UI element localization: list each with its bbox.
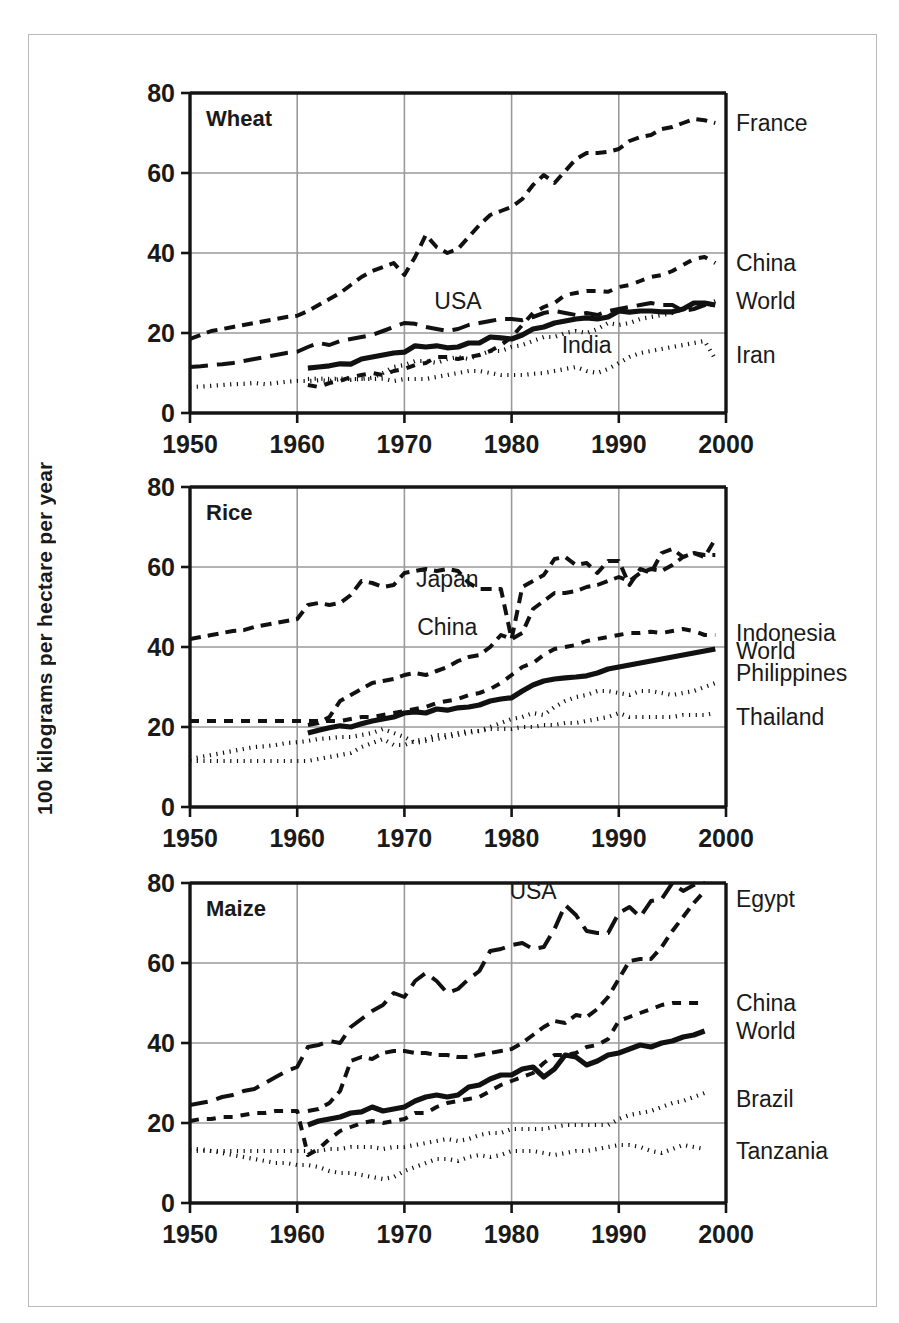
y-tick-label: 20 xyxy=(147,1109,175,1137)
panel-wheat: 020406080195019601970198019902000WheatUS… xyxy=(29,35,878,455)
y-tick-label: 40 xyxy=(147,1029,175,1057)
y-tick-label: 80 xyxy=(147,79,175,107)
chart-maize: 020406080195019601970198019902000MaizeUS… xyxy=(29,817,878,1277)
series-line-philippines xyxy=(190,683,715,759)
x-tick-label: 1970 xyxy=(377,1220,433,1248)
y-tick-label: 80 xyxy=(147,869,175,897)
inline-annotation-usa: USA xyxy=(434,288,482,314)
y-tick-label: 60 xyxy=(147,949,175,977)
series-label-egypt: Egypt xyxy=(736,886,795,912)
figure-frame: 100 kilograms per hectare per year 02040… xyxy=(28,34,877,1307)
series-group xyxy=(190,881,705,1179)
y-tick-label: 60 xyxy=(147,159,175,187)
inline-annotation-india: India xyxy=(562,332,612,358)
y-tick-label: 80 xyxy=(147,473,175,501)
series-line-tanzania xyxy=(190,1145,705,1179)
x-tick-label: 1990 xyxy=(591,1220,647,1248)
series-label-philippines: Philippines xyxy=(736,660,847,686)
y-tick-label: 40 xyxy=(147,239,175,267)
x-tick-label: 1950 xyxy=(162,1220,218,1248)
inline-annotation-china: China xyxy=(417,614,477,640)
series-line-egypt xyxy=(308,891,705,1111)
series-line-usa xyxy=(190,881,705,1105)
series-label-france: France xyxy=(736,110,808,136)
series-label-china: China xyxy=(736,990,796,1016)
panel-title: Wheat xyxy=(206,106,273,131)
y-tick-label: 0 xyxy=(161,1189,175,1217)
series-label-brazil: Brazil xyxy=(736,1086,794,1112)
series-label-china: China xyxy=(736,250,796,276)
series-label-iran: Iran xyxy=(736,342,776,368)
panel-title: Maize xyxy=(206,896,266,921)
series-label-tanzania: Tanzania xyxy=(736,1138,828,1164)
x-tick-label: 2000 xyxy=(698,1220,754,1248)
y-tick-label: 20 xyxy=(147,713,175,741)
series-label-world: World xyxy=(736,288,796,314)
series-label-world: World xyxy=(736,1018,796,1044)
chart-wheat: 020406080195019601970198019902000WheatUS… xyxy=(29,35,878,455)
series-line-world xyxy=(308,1031,705,1125)
inline-annotation-japan: Japan xyxy=(416,566,479,592)
y-tick-label: 40 xyxy=(147,633,175,661)
y-tick-label: 60 xyxy=(147,553,175,581)
x-tick-label: 1960 xyxy=(269,1220,325,1248)
panel-title: Rice xyxy=(206,500,252,525)
chart-rice: 020406080195019601970198019902000RiceJap… xyxy=(29,429,878,849)
inline-annotation-usa: USA xyxy=(509,878,557,904)
panel-rice: 020406080195019601970198019902000RiceJap… xyxy=(29,429,878,849)
y-tick-label: 0 xyxy=(161,399,175,427)
series-label-thailand: Thailand xyxy=(736,704,824,730)
panel-maize: 020406080195019601970198019902000MaizeUS… xyxy=(29,817,878,1277)
x-tick-label: 1980 xyxy=(484,1220,540,1248)
y-tick-label: 20 xyxy=(147,319,175,347)
series-line-china xyxy=(190,1003,705,1155)
